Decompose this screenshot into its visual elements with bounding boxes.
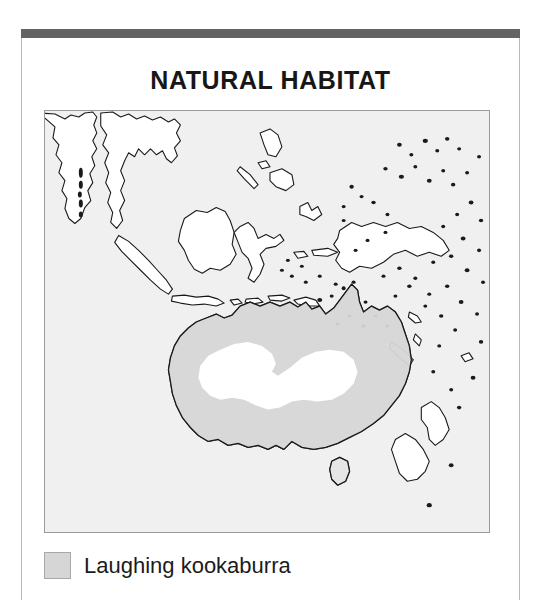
habitat-page: NATURAL HABITAT bbox=[0, 0, 538, 600]
map-legend: Laughing kookaburra bbox=[44, 552, 291, 579]
page-title: NATURAL HABITAT bbox=[21, 66, 520, 95]
header-bar bbox=[21, 29, 520, 38]
oceania-map-svg bbox=[45, 111, 489, 532]
map-frame bbox=[44, 110, 490, 533]
page-left-rule bbox=[21, 30, 22, 600]
page-right-rule bbox=[519, 30, 520, 600]
legend-label-laughing-kookaburra: Laughing kookaburra bbox=[84, 555, 291, 577]
legend-swatch-laughing-kookaburra bbox=[44, 552, 71, 579]
